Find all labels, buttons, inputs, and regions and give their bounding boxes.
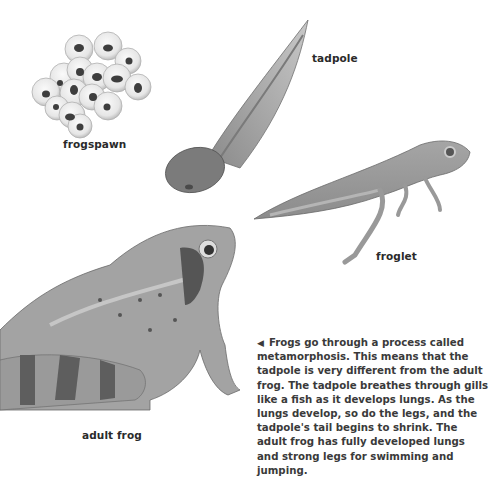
frogspawn-label: frogspawn: [63, 138, 126, 150]
frogspawn-eggs: [32, 32, 151, 138]
tadpole-label: tadpole: [312, 52, 358, 64]
caption: ◀Frogs go through a process called metam…: [257, 336, 489, 478]
froglet-drawing: [254, 141, 470, 262]
adult-frog-label: adult frog: [82, 429, 142, 441]
tadpole-drawing: [160, 20, 308, 199]
left-triangle-icon: ◀: [257, 338, 264, 348]
froglet-label: froglet: [376, 250, 417, 262]
adult-frog-drawing: [0, 225, 240, 410]
caption-text: Frogs go through a process called metamo…: [257, 337, 488, 476]
